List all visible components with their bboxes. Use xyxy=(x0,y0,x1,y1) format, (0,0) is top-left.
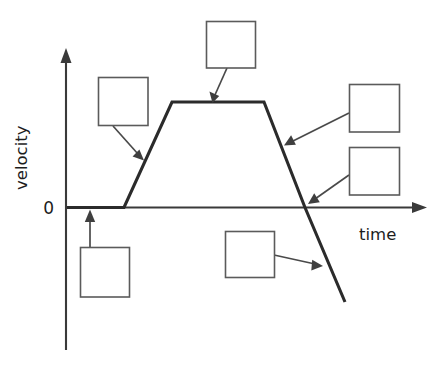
callout-right-lower-arrowhead xyxy=(308,193,320,204)
callout-right-upper-box[interactable] xyxy=(350,85,400,133)
velocity-time-figure: velocity 0 time xyxy=(0,0,448,373)
callout-bottom-middle-box[interactable] xyxy=(226,232,275,278)
y-axis-label: velocity xyxy=(12,125,31,190)
callout-right-upper-leader xyxy=(291,113,349,142)
callout-top-leader xyxy=(215,68,228,96)
callout-bottom-left[interactable] xyxy=(81,210,130,298)
callout-left-box[interactable] xyxy=(99,78,149,126)
callout-bottom-left-arrowhead xyxy=(85,210,95,223)
callout-left[interactable] xyxy=(99,78,149,161)
callout-right-lower-box[interactable] xyxy=(350,148,400,196)
callout-right-upper[interactable] xyxy=(284,85,400,146)
callout-top-box[interactable] xyxy=(207,22,256,69)
graph-canvas: velocity 0 time xyxy=(0,0,448,373)
origin-tick-label: 0 xyxy=(43,198,54,218)
callout-left-leader xyxy=(113,126,138,154)
x-axis-arrowhead xyxy=(412,202,427,213)
callout-bottom-middle[interactable] xyxy=(226,232,324,278)
callout-bottom-left-box[interactable] xyxy=(81,248,130,298)
callout-left-arrowhead xyxy=(133,150,144,161)
callout-right-lower-leader xyxy=(315,175,349,199)
y-axis-arrowhead xyxy=(61,48,72,63)
callout-right-lower[interactable] xyxy=(308,148,400,205)
callout-bottom-middle-arrowhead xyxy=(311,260,323,271)
callout-top[interactable] xyxy=(207,22,256,104)
x-axis-label: time xyxy=(359,225,396,244)
callout-bottom-middle-leader xyxy=(274,255,315,264)
